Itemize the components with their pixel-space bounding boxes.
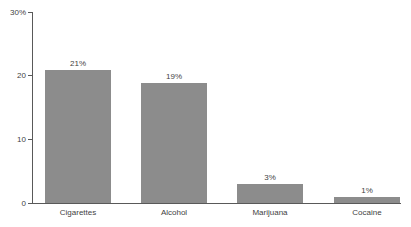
bar-value-cigarettes: 21% (45, 59, 111, 68)
y-axis-tick-mark-10 (28, 139, 32, 140)
x-axis-line (32, 203, 401, 204)
bar-value-marijuana: 3% (237, 173, 303, 182)
bar-alcohol[interactable] (141, 83, 207, 203)
x-axis-label-cigarettes: Cigarettes (45, 208, 111, 218)
bar-chart: 30% 20 10 0 21% 19% 3% 1% Cigarettes Alc… (0, 0, 411, 227)
y-axis-line (32, 12, 33, 204)
y-axis-tick-mark-20 (28, 75, 32, 76)
x-axis-label-cocaine: Cocaine (334, 208, 400, 218)
bar-marijuana[interactable] (237, 184, 303, 203)
y-axis-tick-mark-30 (28, 12, 32, 13)
y-axis-tick-label-0: 0 (22, 199, 26, 208)
y-axis-tick-label-30: 30% (10, 8, 26, 17)
x-axis-label-alcohol: Alcohol (141, 208, 207, 218)
y-axis-tick-label-10: 10 (17, 135, 26, 144)
bar-cocaine[interactable] (334, 197, 400, 203)
x-axis-label-marijuana: Marijuana (237, 208, 303, 218)
y-axis-tick-label-20: 20 (17, 71, 26, 80)
bar-value-cocaine: 1% (334, 186, 400, 195)
bar-cigarettes[interactable] (45, 70, 111, 203)
bar-value-alcohol: 19% (141, 72, 207, 81)
